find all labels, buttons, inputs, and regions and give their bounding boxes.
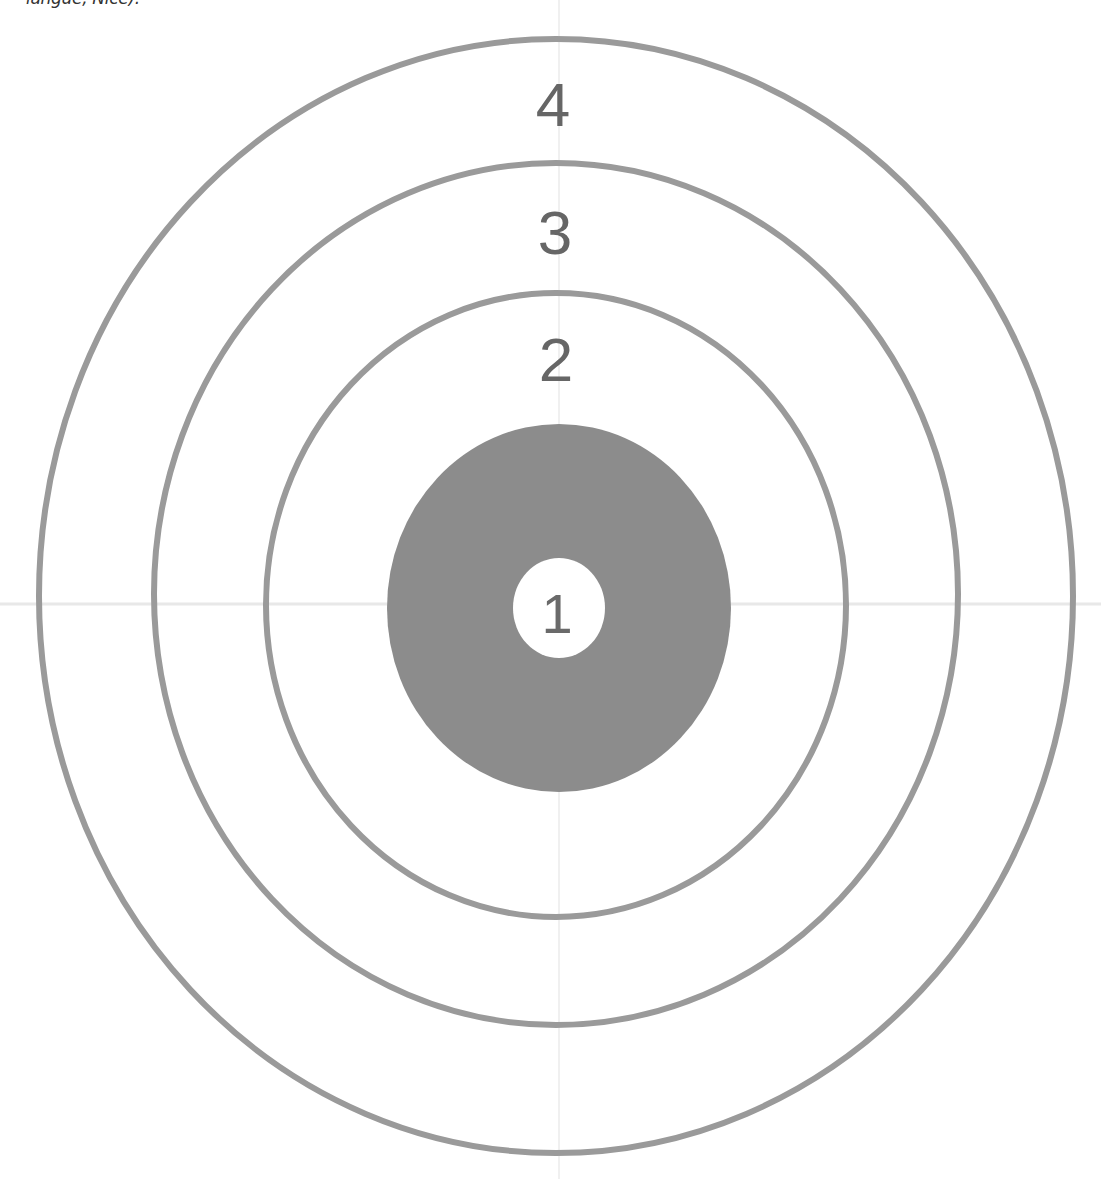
- bullseye-label-1: 1: [541, 582, 572, 645]
- ring-label-2: 2: [539, 325, 573, 394]
- target-diagram: 4 3 2 1: [0, 0, 1101, 1179]
- ring-label-3: 3: [538, 198, 572, 267]
- ring-label-4: 4: [536, 70, 570, 139]
